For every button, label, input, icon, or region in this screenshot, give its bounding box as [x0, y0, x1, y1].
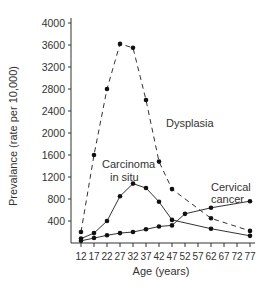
- data-point: [209, 216, 214, 221]
- data-point: [170, 223, 175, 228]
- y-tick-label: 2800: [42, 83, 66, 95]
- x-tick-label: 67: [218, 251, 230, 262]
- cervical-label-line2: cancer: [211, 193, 244, 205]
- x-tick-label: 52: [179, 251, 191, 262]
- x-tick-label: 72: [231, 251, 243, 262]
- data-point: [131, 45, 136, 50]
- axes: 4008001200160020002400280032003600400012…: [42, 17, 256, 262]
- x-axis-label: Age (years): [133, 265, 190, 277]
- x-tick-label: 37: [140, 251, 152, 262]
- x-tick-label: 32: [127, 251, 139, 262]
- carcinoma-label-line1: Carcinoma: [102, 158, 156, 170]
- data-point: [105, 219, 110, 224]
- data-point: [79, 230, 84, 235]
- x-tick-label: 57: [192, 251, 204, 262]
- data-point: [118, 42, 123, 47]
- data-point: [144, 186, 149, 191]
- dysplasia-label: Dysplasia: [166, 117, 215, 129]
- data-point: [92, 231, 97, 236]
- data-point: [157, 224, 162, 229]
- data-point: [105, 87, 110, 92]
- x-tick-label: 62: [205, 251, 217, 262]
- data-point: [248, 234, 253, 239]
- x-tick-label: 47: [166, 251, 178, 262]
- data-point: [157, 199, 162, 204]
- data-point: [92, 153, 97, 158]
- y-tick-label: 800: [47, 193, 65, 205]
- y-tick-label: 3200: [42, 61, 66, 73]
- series-layer: [79, 42, 253, 244]
- data-point: [131, 230, 136, 235]
- x-tick-label: 42: [153, 251, 165, 262]
- x-tick-label: 12: [75, 251, 87, 262]
- x-tick-label: 17: [88, 251, 100, 262]
- y-tick-label: 1600: [42, 149, 66, 161]
- x-tick-label: 27: [114, 251, 126, 262]
- data-point: [144, 98, 149, 103]
- data-point: [209, 226, 214, 231]
- y-tick-label: 2000: [42, 127, 66, 139]
- y-tick-label: 400: [47, 215, 65, 227]
- data-point: [118, 194, 123, 199]
- cervical-label-line1: Cervical: [211, 181, 251, 193]
- data-point: [170, 218, 175, 223]
- data-point: [248, 229, 253, 234]
- data-point: [144, 227, 149, 232]
- data-point: [183, 212, 188, 217]
- data-point: [248, 199, 253, 204]
- data-point: [79, 239, 84, 244]
- data-point: [92, 236, 97, 241]
- y-tick-label: 3600: [42, 39, 66, 51]
- data-point: [170, 187, 175, 192]
- y-tick-label: 2400: [42, 105, 66, 117]
- y-axis-label: Prevalance (rate per 10,000): [7, 66, 19, 206]
- y-tick-label: 4000: [42, 17, 66, 29]
- data-point: [209, 206, 214, 211]
- y-tick-label: 1200: [42, 171, 66, 183]
- data-point: [105, 233, 110, 238]
- data-point: [157, 159, 162, 164]
- x-tick-label: 77: [244, 251, 256, 262]
- carcinoma-label-line2: in situ: [110, 171, 139, 183]
- data-point: [118, 231, 123, 236]
- x-tick-label: 22: [101, 251, 113, 262]
- prevalence-chart: 4008001200160020002400280032003600400012…: [0, 0, 267, 290]
